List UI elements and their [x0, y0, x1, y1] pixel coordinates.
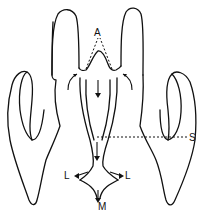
label-m: M [98, 202, 106, 212]
right-finger [121, 8, 143, 75]
inner-wall-right [102, 80, 110, 140]
right-inner-loop [160, 74, 181, 140]
central-arch [79, 51, 121, 71]
label-l-left: L [64, 171, 70, 181]
arrowhead-stalk-down [94, 156, 100, 161]
left-finger [52, 10, 79, 75]
arrow-right-curve [123, 74, 132, 90]
label-a: A [94, 28, 101, 38]
arrowhead-right-l [119, 173, 124, 179]
arrowhead-down-center [95, 93, 101, 98]
right-outer-lobe [140, 72, 196, 205]
label-l-right: L [125, 171, 131, 181]
dashed-line-a-right [100, 38, 112, 69]
arrow-left-curve [68, 74, 77, 90]
bottom-cusp [80, 180, 118, 198]
arrowhead-left-l [74, 173, 79, 179]
label-s: S [189, 133, 196, 143]
